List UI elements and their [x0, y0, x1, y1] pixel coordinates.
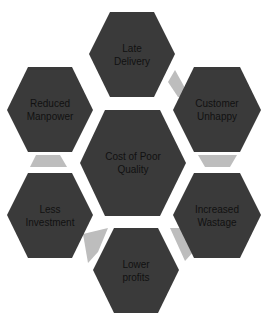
connector-customer-unhappy-to-increased-wastage — [198, 155, 237, 167]
node-label-customer-unhappy: Customer Unhappy — [173, 67, 261, 152]
node-label-lower-profits: Lower profits — [93, 228, 179, 313]
connector-less-investment-to-reduced-manpower — [30, 155, 67, 167]
node-label-increased-wastage: Increased Wastage — [173, 173, 261, 258]
center-label-cost-of-poor-quality: Cost of Poor Quality — [80, 110, 186, 216]
node-label-late-delivery: Late Delivery — [89, 12, 175, 97]
